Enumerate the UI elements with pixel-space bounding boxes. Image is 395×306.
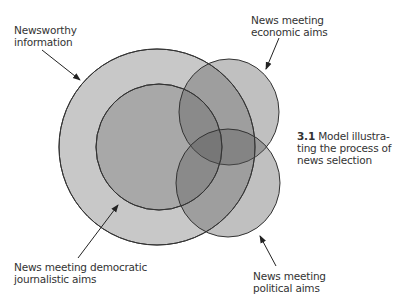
political-label-line2: political aims	[253, 282, 326, 294]
political-label-line1: News meeting	[253, 270, 326, 282]
caption-text-line1: Model illustra-	[318, 130, 389, 142]
democratic-label: News meeting democratic journalistic aim…	[14, 261, 147, 285]
newsworthy-label-line1: Newsworthy	[14, 24, 77, 36]
economic-label: News meeting economic aims	[251, 14, 327, 38]
economic-label-line2: economic aims	[251, 26, 327, 38]
political-label: News meeting political aims	[253, 270, 326, 294]
newsworthy-label: Newsworthy information	[14, 24, 77, 48]
newsworthy-arrow	[42, 50, 80, 80]
newsworthy-label-line2: information	[14, 36, 77, 48]
political-arrow	[260, 236, 276, 266]
figure-caption: 3.1 Model illustra- ting the process of …	[297, 130, 391, 166]
caption-text-line2: ting the process of	[297, 142, 391, 154]
economic-arrow	[266, 38, 279, 69]
caption-line1: 3.1 Model illustra-	[297, 130, 391, 142]
democratic-label-line2: journalistic aims	[14, 273, 147, 285]
political-aims-circle	[176, 129, 280, 237]
caption-text-line3: news selection	[297, 154, 391, 166]
economic-label-line1: News meeting	[251, 14, 327, 26]
democratic-label-line1: News meeting democratic	[14, 261, 147, 273]
figure-number: 3.1	[297, 130, 315, 142]
